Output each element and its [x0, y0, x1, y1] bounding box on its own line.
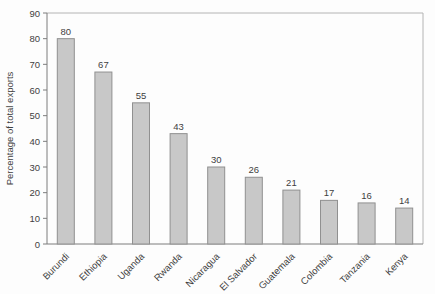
bar-guatemala [283, 190, 300, 244]
x-category-label: Guatemala [256, 250, 297, 291]
x-category-label: Ethiopia [77, 250, 110, 283]
y-tick-label: 70 [29, 59, 40, 70]
x-category-label: Nicaragua [183, 250, 222, 289]
y-tick-label: 10 [29, 213, 40, 224]
bar-uganda [133, 103, 150, 244]
y-axis-title: Percentage of total exports [4, 71, 15, 185]
bar-tanzania [358, 203, 375, 244]
y-tick-label: 40 [29, 136, 40, 147]
bar-ethiopia [95, 72, 112, 244]
bar-value-label: 16 [361, 190, 372, 201]
bar-value-label: 55 [136, 90, 147, 101]
bar-el-salvador [245, 177, 262, 244]
x-category-label: Tanzania [337, 250, 372, 285]
x-category-label: El Salvador [217, 251, 259, 293]
x-category-label: Colombia [298, 250, 335, 287]
bar-nicaragua [208, 167, 225, 244]
bar-burundi [57, 39, 74, 244]
bar-value-label: 67 [98, 59, 109, 70]
bar-value-label: 17 [324, 187, 335, 198]
bar-value-label: 43 [173, 121, 184, 132]
bar-kenya [396, 208, 413, 244]
y-tick-label: 90 [29, 8, 40, 19]
bar-rwanda [170, 134, 187, 244]
y-tick-label: 20 [29, 187, 40, 198]
y-tick-label: 50 [29, 110, 40, 121]
bar-chart-canvas: 0102030405060708090Percentage of total e… [0, 0, 435, 294]
bar-value-label: 21 [286, 177, 297, 188]
x-category-label: Burundi [40, 251, 71, 282]
x-category-label: Kenya [383, 250, 410, 277]
x-category-label: Uganda [115, 250, 147, 282]
bar-chart-figure: 0102030405060708090Percentage of total e… [0, 0, 435, 294]
bar-colombia [321, 200, 338, 244]
bar-value-label: 26 [249, 164, 260, 175]
x-category-label: Rwanda [152, 250, 185, 283]
y-tick-label: 0 [35, 239, 40, 250]
bar-value-label: 80 [61, 26, 72, 37]
bar-value-label: 30 [211, 154, 222, 165]
y-tick-label: 30 [29, 162, 40, 173]
y-tick-label: 60 [29, 85, 40, 96]
bar-value-label: 14 [399, 195, 410, 206]
y-tick-label: 80 [29, 33, 40, 44]
